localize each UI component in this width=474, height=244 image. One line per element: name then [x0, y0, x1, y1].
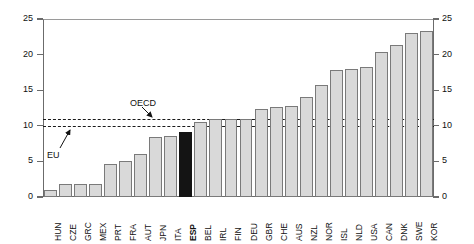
y-tick-label-left: 5: [11, 156, 33, 165]
bar-che: [270, 107, 283, 197]
bar-nld: [345, 69, 358, 197]
x-label-gbr: GBR: [254, 199, 269, 243]
x-label-dnk: DNK: [389, 199, 404, 243]
chart-figure: OECD EU HUNCZEGRCMEXPRTFRAAUTJPNITAESPBE…: [0, 0, 474, 244]
bar-irl: [209, 119, 222, 197]
y-tick-mark-left: [37, 196, 43, 197]
y-tick-mark-right: [433, 161, 439, 162]
x-label-cze: CZE: [58, 199, 73, 243]
y-tick-label-right: 10: [442, 121, 464, 130]
bar-fra: [119, 161, 132, 197]
x-label-irl: IRL: [208, 199, 223, 243]
y-tick-label-right: 15: [442, 85, 464, 94]
y-tick-label-left: 15: [11, 85, 33, 94]
x-label-swe: SWE: [404, 199, 419, 243]
y-tick-mark-left: [37, 54, 43, 55]
y-tick-label-left: 0: [11, 192, 33, 201]
bar-deu: [240, 119, 253, 197]
bar-kor: [420, 31, 433, 197]
x-label-nld: NLD: [344, 199, 359, 243]
bar-grc: [74, 184, 87, 197]
y-tick-label-left: 10: [11, 121, 33, 130]
x-label-jpn: JPN: [148, 199, 163, 243]
x-label-bel: BEL: [193, 199, 208, 243]
x-label-hun: HUN: [43, 199, 58, 243]
bar-esp: [179, 132, 192, 198]
y-tick-label-right: 20: [442, 50, 464, 59]
x-label-deu: DEU: [239, 199, 254, 243]
x-label-grc: GRC: [73, 199, 88, 243]
bar-ita: [164, 136, 177, 197]
bar-isl: [330, 70, 343, 197]
y-tick-label-right: 5: [442, 156, 464, 165]
bar-dnk: [390, 45, 403, 197]
bar-mex: [89, 184, 102, 197]
y-tick-label-left: 25: [11, 14, 33, 23]
x-label-aut: AUT: [133, 199, 148, 243]
bar-fin: [225, 119, 238, 197]
x-label-mex: MEX: [88, 199, 103, 243]
x-label-kor: KOR: [419, 199, 434, 243]
bar-swe: [405, 33, 418, 197]
bar-series: [43, 19, 434, 197]
annotation-oecd-label: OECD: [130, 98, 156, 108]
x-label-ita: ITA: [163, 199, 178, 243]
x-label-nzl: NZL: [299, 199, 314, 243]
x-label-text: KOR: [430, 223, 439, 241]
bar-aus: [285, 106, 298, 197]
bar-hun: [44, 190, 57, 197]
y-tick-mark-right: [433, 125, 439, 126]
x-label-prt: PRT: [103, 199, 118, 243]
y-tick-mark-left: [37, 125, 43, 126]
bar-usa: [360, 67, 373, 197]
x-label-usa: USA: [359, 199, 374, 243]
y-tick-mark-left: [37, 161, 43, 162]
bar-prt: [104, 164, 117, 197]
bar-bel: [194, 122, 207, 197]
y-tick-label-left: 20: [11, 50, 33, 59]
x-label-che: CHE: [269, 199, 284, 243]
y-tick-mark-right: [433, 196, 439, 197]
y-tick-mark-right: [433, 54, 439, 55]
y-tick-label-right: 0: [442, 192, 464, 201]
x-label-nor: NOR: [314, 199, 329, 243]
bar-can: [375, 52, 388, 197]
bar-gbr: [255, 109, 268, 197]
y-tick-mark-left: [37, 18, 43, 19]
x-label-fra: FRA: [118, 199, 133, 243]
y-tick-mark-left: [37, 90, 43, 91]
x-label-aus: AUS: [284, 199, 299, 243]
x-axis-category-labels: HUNCZEGRCMEXPRTFRAAUTJPNITAESPBELIRLFIND…: [43, 199, 434, 244]
x-label-can: CAN: [374, 199, 389, 243]
y-tick-mark-right: [433, 18, 439, 19]
bar-nor: [315, 85, 328, 197]
bar-jpn: [149, 137, 162, 197]
bar-cze: [59, 184, 72, 197]
x-label-fin: FIN: [223, 199, 238, 243]
x-label-esp: ESP: [178, 199, 193, 243]
annotation-eu-label: EU: [47, 150, 60, 160]
y-tick-mark-right: [433, 90, 439, 91]
x-label-isl: ISL: [329, 199, 344, 243]
y-tick-label-right: 25: [442, 14, 464, 23]
bar-aut: [134, 154, 147, 197]
bar-nzl: [300, 97, 313, 197]
